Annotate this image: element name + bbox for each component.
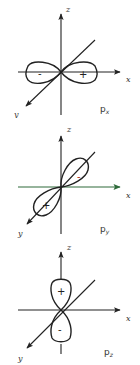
z-axis-label: z: [66, 125, 72, 134]
negative-sign: -: [77, 171, 81, 182]
py-orbital-diagram: z x y - + py: [0, 118, 140, 238]
orbital-label: pz: [104, 347, 114, 358]
positive-sign: +: [57, 286, 65, 297]
orbital-label: px: [100, 104, 110, 115]
orbital-subscript: x: [105, 108, 110, 115]
x-axis-label: x: [126, 314, 131, 323]
positive-sign: +: [79, 69, 87, 80]
x-axis-label: x: [126, 75, 131, 84]
panel-pz: z x y + - pz: [0, 238, 140, 365]
z-axis-label: z: [65, 5, 71, 14]
x-axis-label: x: [126, 191, 131, 200]
positive-sign: +: [42, 200, 50, 211]
pz-orbital-diagram: z x y + - pz: [0, 238, 140, 365]
y-axis-label: y: [17, 354, 23, 363]
negative-sign: -: [38, 68, 42, 79]
z-axis-label: z: [66, 243, 72, 252]
y-axis-label: y: [13, 110, 19, 118]
negative-sign: -: [58, 324, 62, 335]
negative-lobe: [61, 158, 88, 187]
panel-px: z x y - + px: [0, 0, 140, 118]
negative-lobe: [26, 62, 61, 83]
px-orbital-diagram: z x y - + px: [0, 0, 140, 118]
orbital-subscript: z: [109, 351, 114, 358]
orbital-subscript: y: [105, 228, 110, 236]
panel-py: z x y - + py: [0, 118, 140, 238]
orbital-label: py: [100, 224, 110, 236]
y-axis-label: y: [17, 229, 23, 238]
